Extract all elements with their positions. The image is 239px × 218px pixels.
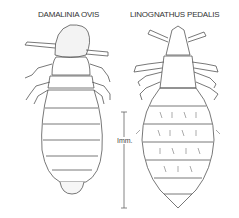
scale-bar [121,112,127,208]
scale-bar-label: Imm. [116,137,134,144]
linognathus-pedalis-drawing [134,26,220,208]
damalinia-ovis-drawing [25,25,110,194]
illustration-canvas [0,0,239,218]
